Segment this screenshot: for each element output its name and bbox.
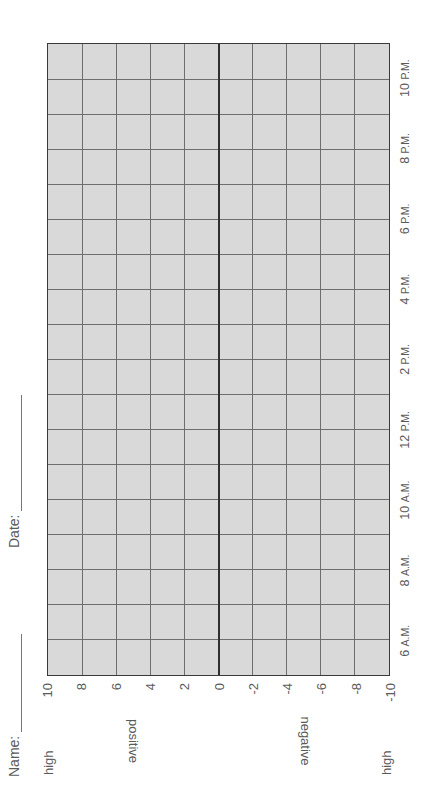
time-tick-suffix: P.M.	[399, 59, 411, 79]
value-tick-label: -6	[314, 683, 329, 713]
grid-row-line	[286, 44, 287, 675]
time-tick-suffix: P.M.	[399, 204, 411, 224]
value-tick-label: 2	[177, 683, 192, 713]
value-tick-label: 10	[40, 683, 55, 713]
graph-worksheet: Name: Date: high high positive negative …	[0, 0, 430, 785]
date-blank-line[interactable]	[7, 395, 22, 511]
name-label: Name:	[6, 736, 22, 777]
grid-row-line	[252, 44, 253, 675]
zero-axis-line	[218, 44, 220, 675]
value-tick-label: -4	[280, 683, 295, 713]
time-tick-suffix: A.M.	[399, 481, 411, 503]
grid-row-line	[150, 44, 151, 675]
positive-label: positive	[126, 719, 141, 763]
grid-row-line	[320, 44, 321, 675]
time-tick-hour: 8	[398, 157, 412, 164]
value-tick-label: 4	[142, 683, 157, 713]
value-tick-label: 0	[211, 683, 226, 713]
value-tick-label: 8	[74, 683, 89, 713]
time-tick-label: 10 A.M.	[398, 481, 412, 520]
time-tick-label: 8 P.M.	[398, 133, 412, 164]
time-tick-suffix: P.M.	[399, 274, 411, 294]
date-label: Date:	[6, 515, 22, 548]
grid-row-line	[354, 44, 355, 675]
high-top-label: high	[41, 750, 56, 775]
time-tick-label: 4 P.M.	[398, 274, 412, 305]
time-tick-hour: 2	[398, 368, 412, 375]
time-tick-hour: 12	[398, 435, 412, 449]
grid-row-line	[116, 44, 117, 675]
time-tick-hour: 10	[398, 83, 412, 97]
time-tick-suffix: P.M.	[399, 411, 411, 431]
time-tick-hour: 8	[398, 580, 412, 587]
grid-row-line	[82, 44, 83, 675]
time-tick-hour: 6	[398, 650, 412, 657]
negative-label: negative	[298, 716, 313, 765]
name-blank-line[interactable]	[7, 634, 22, 732]
time-tick-hour: 10	[398, 506, 412, 520]
graph-grid[interactable]	[47, 43, 390, 676]
time-tick-hour: 6	[398, 227, 412, 234]
value-tick-label: -2	[245, 683, 260, 713]
name-field[interactable]: Name:	[6, 634, 22, 777]
time-tick-label: 6 A.M.	[398, 625, 412, 657]
date-field[interactable]: Date:	[6, 395, 22, 548]
grid-row-line	[184, 44, 185, 675]
time-tick-label: 2 P.M.	[398, 344, 412, 375]
value-tick-label: 6	[108, 683, 123, 713]
time-tick-label: 10 P.M.	[398, 59, 412, 97]
time-tick-label: 12 P.M.	[398, 411, 412, 449]
time-tick-label: 8 A.M.	[398, 554, 412, 586]
time-tick-label: 6 P.M.	[398, 204, 412, 235]
value-tick-label: -10	[383, 683, 398, 713]
time-tick-suffix: A.M.	[399, 554, 411, 576]
time-tick-suffix: A.M.	[399, 625, 411, 647]
value-tick-label: -8	[348, 683, 363, 713]
time-tick-suffix: P.M.	[399, 133, 411, 153]
time-tick-hour: 4	[398, 298, 412, 305]
high-bottom-label: high	[379, 750, 394, 775]
time-tick-suffix: P.M.	[399, 344, 411, 364]
